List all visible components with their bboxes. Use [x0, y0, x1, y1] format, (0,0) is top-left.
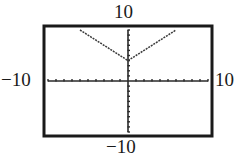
graph-window [0, 0, 239, 157]
axes [48, 30, 208, 132]
